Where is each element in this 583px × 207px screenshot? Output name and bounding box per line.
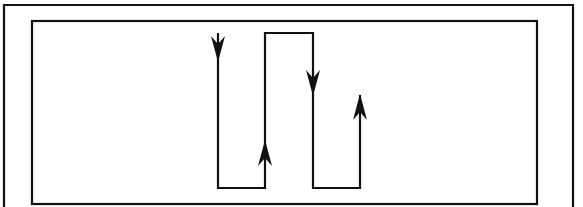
outer-frame-line	[4, 5, 573, 207]
flow-path	[218, 33, 360, 188]
outer-frame	[4, 5, 573, 207]
inner-frame	[32, 21, 537, 204]
diagram-canvas	[0, 0, 583, 207]
flow-arrows	[211, 36, 367, 166]
